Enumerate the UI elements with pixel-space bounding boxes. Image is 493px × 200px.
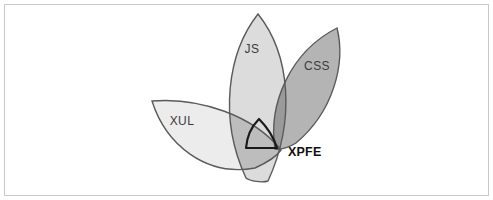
venn-diagram: JS CSS XUL XPFE [0, 0, 493, 200]
css-label: CSS [304, 59, 330, 73]
xul-label: XUL [170, 114, 195, 128]
xpfe-label: XPFE [288, 145, 321, 159]
figure-container: JS CSS XUL XPFE [0, 0, 493, 200]
js-label: JS [245, 42, 260, 56]
